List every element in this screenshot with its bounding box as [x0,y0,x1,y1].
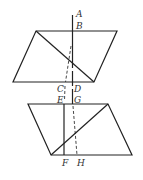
geometry-diagram: A B C D E G F H [0,0,143,180]
upper-diagonal [36,31,94,82]
line-G-hidden [73,106,77,155]
label-A: A [75,9,83,19]
lower-diagonal [51,104,108,155]
label-B: B [75,21,83,31]
label-F: F [61,158,69,168]
label-C: C [57,84,64,94]
label-H: H [76,158,85,168]
label-D: D [73,84,81,94]
label-G: G [74,95,81,105]
label-E: E [56,95,64,105]
line-CE [65,86,66,101]
line-C-hidden-upper [66,46,72,82]
